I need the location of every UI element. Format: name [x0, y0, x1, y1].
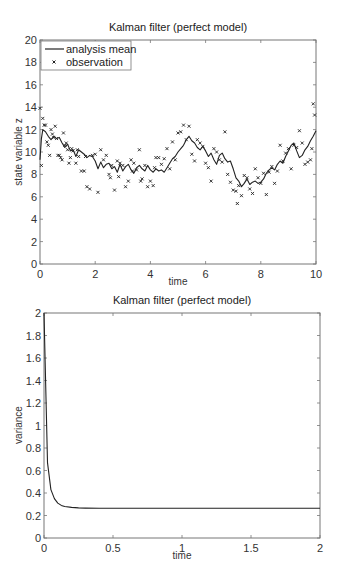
legend-label-observation: observation [66, 56, 123, 68]
y-tick-label: 18 [25, 56, 37, 68]
x-tick-label: 8 [258, 268, 264, 280]
y-tick-label: 1.2 [26, 397, 41, 409]
figure: Kalman filter (perfect model) 0246810024… [0, 0, 338, 588]
x-tick-label: 2 [92, 268, 98, 280]
y-tick-label: 14 [25, 101, 37, 113]
y-tick-label: 20 [25, 34, 37, 46]
y-axis-label: state variable z [13, 118, 24, 185]
y-tick-label: 0 [35, 532, 41, 544]
chart-variance: Kalman filter (perfect model) 00.511.520… [13, 294, 323, 561]
plot-area [44, 313, 320, 538]
chart-state-variable: Kalman filter (perfect model) 0246810024… [13, 21, 322, 287]
x-tick-label: 4 [147, 268, 153, 280]
y-tick-label: 10 [25, 146, 37, 158]
x-tick-label: 0 [37, 268, 43, 280]
x-axis-label: time [173, 550, 192, 561]
y-axis-label: variance [13, 406, 24, 444]
y-tick-label: 2 [31, 236, 37, 248]
x-tick-label: 1.5 [243, 542, 258, 554]
y-tick-label: 4 [31, 213, 37, 225]
y-tick-label: 1.8 [26, 330, 41, 342]
x-tick-label: 2 [317, 542, 323, 554]
x-axis-label: time [169, 276, 188, 287]
y-tick-label: 8 [31, 168, 37, 180]
x-tick-label: 6 [203, 268, 209, 280]
x-tick-label: 10 [310, 268, 322, 280]
y-tick-label: 0 [31, 258, 37, 270]
x-tick-label: 0.5 [105, 542, 120, 554]
y-tick-label: 1.4 [26, 375, 41, 387]
legend: analysis mean observation [41, 41, 136, 70]
y-tick-label: 0.6 [26, 465, 41, 477]
y-tick-label: 6 [31, 191, 37, 203]
y-tick-label: 0.4 [26, 487, 41, 499]
legend-label-analysis-mean: analysis mean [66, 43, 136, 55]
x-tick-label: 0 [41, 542, 47, 554]
y-tick-label: 12 [25, 124, 37, 136]
y-tick-label: 1 [35, 420, 41, 432]
y-tick-label: 16 [25, 79, 37, 91]
y-tick-label: 0.2 [26, 510, 41, 522]
chart-title: Kalman filter (perfect model) [109, 21, 247, 33]
chart-title: Kalman filter (perfect model) [113, 294, 251, 306]
y-tick-label: 2 [35, 307, 41, 319]
y-tick-label: 1.6 [26, 352, 41, 364]
y-tick-label: 0.8 [26, 442, 41, 454]
